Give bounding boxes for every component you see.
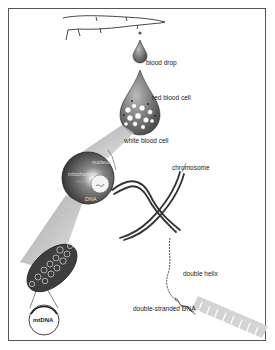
label-double-helix: double helix	[183, 271, 218, 278]
double-helix	[175, 296, 268, 338]
nucleus	[91, 175, 109, 193]
label-blood-drop: blood drop	[146, 60, 177, 67]
label-chromosome: chromosome	[172, 165, 210, 172]
chromosome-strands	[112, 172, 184, 240]
label-mtdna: mtDNA	[33, 317, 53, 323]
label-double-stranded-dna: double-stranded DNA	[133, 306, 196, 313]
dna-extraction-illustration	[0, 0, 275, 350]
label-mitochondria: mitochondria	[68, 172, 97, 177]
label-white-blood-cell: white blood cell	[124, 138, 168, 145]
blood-drop-icon	[133, 40, 147, 63]
label-red-blood-cell: red blood cell	[152, 95, 191, 102]
label-dna: DNA	[85, 197, 97, 203]
finger-icon	[63, 16, 165, 40]
label-nucleus: nucleus	[92, 160, 111, 166]
